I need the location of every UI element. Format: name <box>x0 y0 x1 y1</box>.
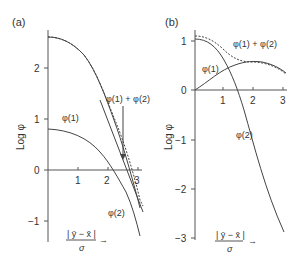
svg-text:σ: σ <box>227 244 233 254</box>
b-ylabel: Log φ <box>163 124 174 150</box>
b-ytick-0: 0 <box>181 85 187 96</box>
svg-text:σ: σ <box>79 243 85 253</box>
a-xlabel: | ȳ − x̄ | σ → <box>66 229 108 253</box>
panel-b-label: (b) <box>165 16 178 28</box>
svg-text:→: → <box>99 235 108 245</box>
figure: (a) 2 1 0 −1 1 2 3 Log φ φ(1) <box>0 0 300 265</box>
a-xtick-3: 3 <box>134 175 140 186</box>
a-phi1-curve <box>48 129 140 236</box>
b-ytick-neg1: −1 <box>175 135 187 146</box>
a-xtick-2: 2 <box>104 175 110 186</box>
b-sum-label: φ(1) + φ(2) <box>233 39 277 49</box>
a-ylabel: Log φ <box>15 124 26 150</box>
svg-text:| ȳ − x̄ |: | ȳ − x̄ | <box>216 230 245 240</box>
b-phi1-label: φ(1) <box>202 64 219 74</box>
a-ytick-2: 2 <box>34 63 40 74</box>
b-ytick-1: 1 <box>181 36 187 47</box>
panel-b: (b) 1 0 −1 −2 −3 1 2 3 Log φ φ(1) + <box>163 16 287 254</box>
a-ytick-0: 0 <box>34 165 40 176</box>
b-phi2-label: φ(2) <box>236 130 253 140</box>
b-xtick-1: 1 <box>220 95 226 106</box>
b-xtick-2: 2 <box>250 95 256 106</box>
b-xtick-3: 3 <box>280 95 286 106</box>
b-xlabel: | ȳ − x̄ | σ → <box>215 230 257 254</box>
svg-text:| ȳ − x̄ |: | ȳ − x̄ | <box>67 229 96 239</box>
a-phi1-label: φ(1) <box>62 113 79 123</box>
b-ytick-neg2: −2 <box>175 184 187 195</box>
a-xtick-1: 1 <box>75 175 81 186</box>
a-sum-label: φ(1) + φ(2) <box>106 94 150 104</box>
panel-a-label: (a) <box>12 16 25 28</box>
a-phi2-label: φ(2) <box>108 208 125 218</box>
b-ytick-neg3: −3 <box>175 233 187 244</box>
a-ytick-1: 1 <box>34 114 40 125</box>
a-ytick-neg1: −1 <box>28 216 40 227</box>
panel-a: (a) 2 1 0 −1 1 2 3 Log φ φ(1) <box>12 16 150 253</box>
svg-text:→: → <box>248 236 257 246</box>
